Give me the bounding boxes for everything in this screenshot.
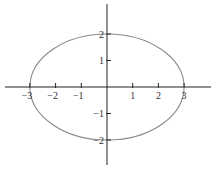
y-tick-label: −1 (93, 108, 104, 119)
x-axis-ticks: −3−2−1123 (22, 83, 187, 101)
x-tick-label: −1 (73, 90, 84, 101)
y-tick-label: 2 (99, 29, 104, 40)
x-tick-label: 1 (130, 90, 135, 101)
x-tick-label: 2 (156, 90, 161, 101)
x-tick-label: 3 (182, 90, 187, 101)
y-tick-label: −2 (93, 135, 104, 146)
axes (5, 4, 211, 165)
y-tick-label: 1 (99, 55, 104, 66)
x-tick-label: −3 (22, 90, 33, 101)
ellipse-plot: −3−2−1123 21−1−2 (0, 0, 213, 171)
x-tick-label: −2 (47, 90, 58, 101)
